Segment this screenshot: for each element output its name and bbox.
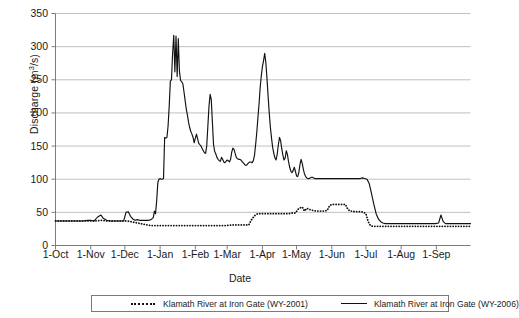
legend-swatch-solid-icon	[341, 300, 367, 308]
legend-entry-1: Klamath River at Iron Gate (WY-2001)	[130, 299, 308, 309]
series-line-1	[56, 204, 471, 226]
legend-entry-2: Klamath River at Iron Gate (WY-2006)	[341, 299, 519, 309]
legend-swatch-dotted-icon	[130, 300, 156, 308]
series-line-2	[56, 35, 471, 223]
chart-legend: Klamath River at Iron Gate (WY-2001)Klam…	[91, 295, 449, 312]
legend-label: Klamath River at Iron Gate (WY-2006)	[374, 299, 519, 309]
legend-label: Klamath River at Iron Gate (WY-2001)	[163, 299, 308, 309]
x-axis-label: Date	[0, 272, 480, 284]
